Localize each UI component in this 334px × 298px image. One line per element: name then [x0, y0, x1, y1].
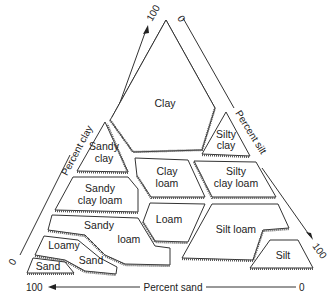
sand-axis-label: Percent sand: [144, 282, 203, 293]
region-label-clay: Clay: [154, 97, 176, 109]
region-label-sandy-clay-loam-1: Sandy: [85, 182, 116, 194]
sand-axis: 100 0 Percent sand: [26, 282, 305, 293]
region-label-silty-clay-loam-1: Silty: [226, 165, 247, 177]
region-label-sand: Sand: [36, 260, 61, 272]
sand-axis-start: 100: [26, 282, 43, 293]
region-label-sandy-clay-1: Sandy: [89, 140, 120, 152]
region-label-sandy-loam-1: Sandy: [84, 219, 115, 231]
sand-axis-arrow-icon: [48, 284, 56, 290]
clay-axis-end: 100: [144, 3, 162, 23]
silt-axis-arrow-icon: [306, 232, 313, 240]
region-label-sandy-clay-2: clay: [95, 152, 114, 164]
region-label-sandy-clay-loam-2: clay loam: [78, 194, 123, 206]
silt-axis-end: 100: [310, 241, 329, 261]
region-label-silty-clay-loam-2: clay loam: [214, 177, 259, 189]
clay-axis-start: 0: [6, 256, 19, 267]
region-label-loam: Loam: [156, 213, 183, 225]
region-label-clay-loam-2: loam: [156, 177, 179, 189]
region-label-silty-clay-2: clay: [217, 139, 236, 151]
region-silty-clay-loam: Silty clay loam: [194, 161, 276, 198]
region-label-loamy-sand-2: Sand: [79, 254, 104, 266]
soil-texture-triangle: 0 100 Percent clay 0 100 Percent silt 10…: [0, 0, 334, 298]
region-label-silt: Silt: [276, 249, 291, 261]
region-label-silt-loam: Silt loam: [216, 223, 257, 235]
clay-axis-arrow-icon: [143, 25, 149, 34]
region-label-loamy-sand-1: Loamy: [48, 239, 80, 251]
region-sandy-clay-loam: Sandy clay loam: [55, 177, 138, 213]
region-label-sandy-loam-2: loam: [118, 233, 141, 245]
region-label-clay-loam-1: Clay: [156, 165, 178, 177]
sand-axis-end: 0: [299, 282, 305, 293]
